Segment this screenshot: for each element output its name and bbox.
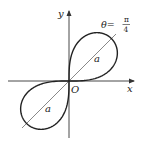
- x-axis-label: x: [127, 83, 133, 94]
- upper-radius-label: a: [94, 53, 100, 64]
- theta-fraction-numerator: π: [124, 15, 129, 24]
- lower-radius-label: a: [45, 103, 51, 114]
- origin-label: O: [71, 84, 79, 95]
- y-axis-label: y: [57, 8, 64, 19]
- theta-fraction-denominator: 4: [124, 25, 129, 34]
- lemniscate-diagram: y x O a a θ= π 4: [0, 0, 141, 144]
- theta-label: θ=: [101, 19, 115, 30]
